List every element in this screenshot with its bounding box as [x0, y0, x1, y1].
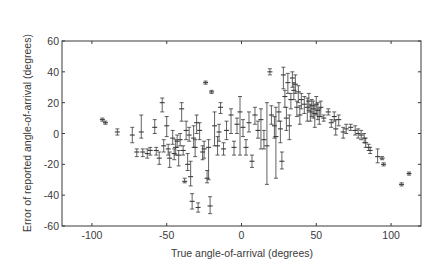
errorbar-point: [380, 157, 385, 160]
errorbar-point: [336, 115, 341, 126]
errorbar-point: [246, 112, 251, 132]
errorbar-point: [218, 103, 223, 114]
errorbar-point: [269, 106, 274, 125]
errorbar-point: [154, 147, 159, 155]
errorbar-point: [348, 124, 353, 130]
errorbar-point: [103, 121, 108, 124]
errorbar-point: [185, 154, 190, 171]
x-tick-label: 0: [239, 229, 245, 241]
errorbar-point: [407, 172, 412, 175]
errorbar-point: [184, 121, 189, 140]
y-tick-label: 60: [47, 35, 59, 47]
errorbar-point: [152, 120, 157, 134]
x-tick-label: -50: [159, 229, 174, 241]
y-axis-label: Error of reported angle-of-arrival (degr…: [21, 34, 33, 232]
errorbar-point: [240, 120, 245, 137]
errorbar-point: [224, 121, 229, 140]
errorbar-point: [375, 149, 380, 163]
errorbar-point: [276, 103, 281, 122]
y-tick-label: -40: [44, 189, 59, 201]
errorbar-point: [287, 115, 292, 140]
x-axis-label: True angle-of-arrival (degrees): [171, 247, 313, 259]
x-axis-ticks: -100-50050100: [81, 41, 400, 241]
errorbar-point: [157, 152, 162, 164]
errorbar-point: [208, 197, 213, 214]
errorbar-point: [139, 115, 144, 138]
x-tick-label: -100: [81, 229, 102, 241]
x-tick-label: 50: [310, 229, 322, 241]
errorbar-point: [134, 149, 139, 157]
errorbar-point: [235, 118, 240, 133]
errorbar-point: [333, 120, 338, 135]
errorbar-point: [179, 103, 184, 122]
y-tick-label: 0: [53, 128, 59, 140]
errorbar-point: [264, 103, 269, 185]
errorbar-point: [255, 121, 260, 138]
errorbar-point: [182, 178, 187, 183]
errorbar-point: [381, 163, 386, 166]
errorbar-point: [203, 81, 208, 84]
errorbar-point: [209, 90, 214, 93]
errorbar-point: [140, 149, 145, 157]
errorbar-point: [176, 150, 181, 165]
errorbar-scatter-chart: -100-50050100 -60-40-200204060 True angl…: [0, 0, 447, 275]
data-points: [100, 67, 412, 213]
plot-frame: [62, 41, 421, 226]
errorbar-point: [284, 107, 289, 130]
errorbar-point: [164, 117, 169, 137]
y-tick-label: 20: [47, 97, 59, 109]
errorbar-point: [221, 143, 226, 155]
errorbar-point: [281, 67, 286, 89]
errorbar-point: [326, 109, 331, 115]
errorbar-point: [232, 141, 237, 155]
errorbar-point: [187, 127, 192, 141]
errorbar-point: [258, 109, 263, 149]
errorbar-point: [115, 129, 120, 135]
errorbar-point: [161, 140, 166, 152]
errorbar-point: [196, 203, 201, 212]
errorbar-point: [229, 109, 234, 134]
errorbar-point: [288, 93, 293, 108]
errorbar-point: [294, 101, 299, 116]
errorbar-point: [190, 194, 195, 209]
errorbar-point: [238, 97, 243, 156]
plot-border: [62, 41, 421, 226]
errorbar-point: [279, 152, 284, 169]
errorbar-point: [100, 118, 105, 121]
errorbar-point: [278, 121, 283, 143]
errorbar-point: [321, 115, 326, 121]
errorbar-point: [160, 98, 165, 112]
errorbar-point: [188, 161, 193, 186]
errorbar-point: [181, 146, 186, 155]
y-tick-label: 40: [47, 66, 59, 78]
y-tick-label: -60: [44, 220, 59, 232]
errorbar-point: [212, 112, 217, 146]
errorbar-point: [282, 90, 287, 107]
errorbar-point: [243, 140, 248, 155]
x-tick-label: 100: [382, 229, 400, 241]
errorbar-point: [249, 155, 254, 167]
errorbar-point: [267, 69, 272, 75]
errorbar-point: [399, 183, 404, 186]
errorbar-point: [252, 107, 257, 124]
errorbar-point: [130, 127, 135, 142]
errorbar-point: [170, 130, 175, 144]
errorbar-point: [197, 123, 202, 140]
y-tick-label: -20: [44, 158, 59, 170]
